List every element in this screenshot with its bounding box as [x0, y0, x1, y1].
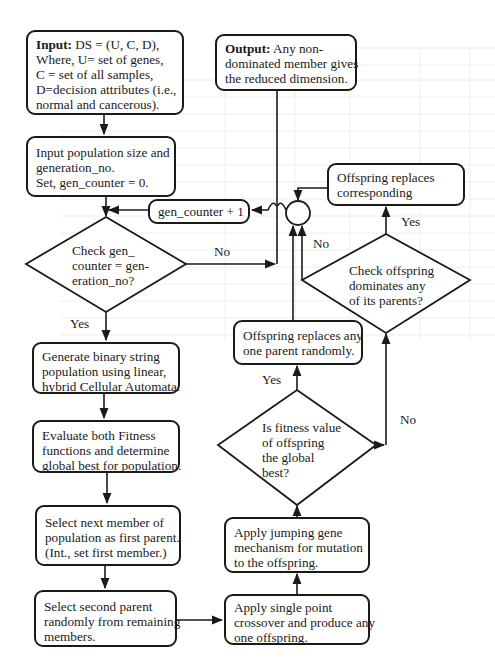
select-second-parent-box: Select second parent randomly from remai… [34, 590, 177, 647]
mutation-line-0: Apply jumping gene [234, 525, 360, 540]
check-gen-yes-label: Yes [70, 316, 89, 331]
check-fitness-line-2: the global [262, 450, 341, 465]
check-fitness-line-1: of offspring [262, 435, 341, 450]
check-dominates-line-1: dominates any [349, 278, 434, 293]
check-dominates-line-2: of its parents? [349, 293, 434, 308]
increment-line-0: gen_counter + 1 [158, 204, 240, 219]
check-gen-line-0: Check gen_ [72, 243, 149, 258]
edge-circle-increment [252, 203, 286, 210]
output-line-0: Output: Any non- [225, 41, 347, 56]
check-fitness-line-3: best? [262, 465, 341, 480]
select-second-line-1: randomly from remaining [44, 614, 167, 629]
input-line-2: C = set of all samples, [36, 67, 174, 82]
evaluate-box: Evaluate both Fitness functions and dete… [32, 420, 180, 473]
replace-corresponding-line-1: corresponding [337, 185, 455, 200]
mutation-box: Apply jumping gene mechanism for mutatio… [224, 517, 370, 573]
crossover-line-2: one offspring. [234, 630, 360, 645]
replace-random-parent-box: Offspring replaces any one parent random… [233, 320, 363, 365]
output-label: Output: [225, 41, 270, 56]
input-label: Input: [36, 37, 72, 52]
generate-line-1: population using linear, [42, 364, 170, 379]
crossover-box: Apply single point crossover and produce… [224, 594, 370, 645]
select-first-line-0: Select next member of [45, 515, 171, 530]
evaluate-line-0: Evaluate both Fitness [42, 428, 170, 443]
dominates-no-label: No [313, 236, 329, 251]
replace-corresponding-box: Offspring replaces corresponding [327, 163, 465, 206]
evaluate-line-2: global best for population. [42, 458, 170, 473]
edge-corresponding-circle [298, 188, 328, 200]
check-gen-text: Check gen_ counter = gen- eration_no? [72, 243, 149, 288]
input-line-0: Input: DS = (U, C, D), [36, 37, 174, 52]
select-second-line-2: members. [44, 629, 167, 644]
output-line-2: the reduced dimension. [225, 71, 347, 86]
evaluate-line-1: functions and determine [42, 443, 170, 458]
check-dominates-text: Check offspring dominates any of its par… [349, 263, 434, 308]
crossover-line-0: Apply single point [234, 600, 360, 615]
check-gen-line-2: eration_no? [72, 273, 149, 288]
output-line-1: dominated member gives [225, 56, 347, 71]
select-first-parent-box: Select next member of population as firs… [35, 505, 181, 566]
input-text-0: DS = (U, C, D), [75, 37, 159, 52]
mutation-line-1: mechanism for mutation [234, 540, 360, 555]
merge-connector-circle [286, 201, 310, 225]
select-first-line-1: population as first parent. [45, 530, 171, 545]
replace-random-line-1: one parent randomly. [243, 343, 353, 358]
check-dominates-line-0: Check offspring [349, 263, 434, 278]
generate-line-2: hybrid Cellular Automata. [42, 379, 170, 394]
check-fitness-text: Is fitness value of offspring the global… [262, 420, 341, 480]
output-box: Output: Any non- dominated member gives … [215, 34, 357, 91]
input-line-4: normal and cancerous). [36, 97, 174, 112]
output-text-0: Any non- [273, 41, 323, 56]
select-second-line-0: Select second parent [44, 599, 167, 614]
check-gen-line-1: counter = gen- [72, 258, 149, 273]
init-line-0: Input population size and [36, 145, 166, 160]
check-gen-no-label: No [214, 244, 230, 259]
generate-line-0: Generate binary string [42, 349, 170, 364]
check-fitness-line-0: Is fitness value [262, 420, 341, 435]
crossover-line-1: crossover and produce any [234, 615, 360, 630]
mutation-line-2: to the offspring. [234, 555, 360, 570]
dominates-yes-label: Yes [401, 214, 420, 229]
input-line-1: Where, U= set of genes, [36, 52, 174, 67]
input-box: Input: DS = (U, C, D), Where, U= set of … [26, 30, 184, 115]
replace-corresponding-line-0: Offspring replaces [337, 170, 455, 185]
init-box: Input population size and generation_no.… [26, 136, 176, 197]
generate-box: Generate binary string population using … [32, 342, 180, 394]
init-line-1: generation_no. [36, 160, 166, 175]
select-first-line-2: (Int., set first member.) [45, 545, 171, 560]
fitness-yes-label: Yes [262, 372, 281, 387]
increment-counter-box: gen_counter + 1 [148, 199, 250, 224]
replace-random-line-0: Offspring replaces any [243, 328, 353, 343]
input-line-3: D=decision attributes (i.e., [36, 82, 174, 97]
fitness-no-label: No [400, 412, 416, 427]
init-line-2: Set, gen_counter = 0. [36, 175, 166, 190]
